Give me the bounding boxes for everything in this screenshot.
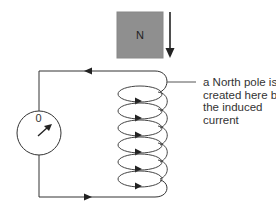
annotation: a North pole is created here by the indu…: [167, 76, 276, 126]
coil-link: [158, 92, 167, 111]
annotation-line-4: current: [203, 114, 240, 126]
coil-link: [158, 126, 167, 145]
meter-zero-label: 0: [35, 112, 41, 124]
bar-magnet: N: [117, 12, 163, 58]
magnet-pole-label: N: [136, 29, 144, 41]
coil-link: [158, 160, 167, 179]
bottom-wire: [39, 155, 167, 197]
coil-turn-back: [118, 171, 162, 179]
coil-link: [158, 109, 167, 128]
annotation-line-1: a North pole is: [203, 76, 276, 88]
arrow-left-icon: [84, 68, 92, 75]
motion-arrow: [166, 12, 175, 58]
coil-link: [158, 143, 167, 162]
coil-turn: [118, 171, 162, 190]
annotation-line-3: the induced: [203, 101, 262, 113]
top-wire: [39, 71, 167, 111]
coil-turn-back: [118, 137, 162, 145]
induction-diagram: N 0 a North pole is created here by the …: [0, 0, 276, 223]
coil: [118, 86, 167, 190]
galvanometer: 0: [17, 111, 61, 155]
coil-turn-back: [118, 86, 162, 94]
coil-turn-back: [118, 120, 162, 128]
annotation-line-2: created here by: [203, 89, 276, 101]
coil-turn-back: [118, 154, 162, 162]
current-arrow-icon: [135, 183, 142, 190]
coil-turn-back: [118, 103, 162, 111]
arrow-right-icon: [84, 194, 92, 201]
arrow-down-icon: [166, 48, 175, 58]
